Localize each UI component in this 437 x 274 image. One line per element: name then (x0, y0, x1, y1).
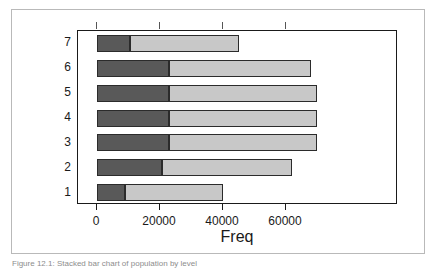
y-tick-label: 5 (59, 85, 71, 99)
bar-row (78, 110, 398, 127)
bar-segment-dark (97, 134, 169, 151)
figure-caption: Figure 12.1: Stacked bar chart of popula… (12, 259, 422, 269)
x-tick-label: 60000 (268, 214, 301, 228)
bar-segment-dark (97, 159, 162, 176)
bar-segment-dark (97, 60, 169, 77)
x-axis-tick (159, 204, 160, 210)
x-axis-tick (96, 204, 97, 210)
y-tick-label: 4 (59, 110, 71, 124)
y-tick-label: 2 (59, 160, 71, 174)
bar-segment-light (130, 35, 239, 52)
bar-segment-light (169, 134, 317, 151)
bar-segment-dark (97, 85, 169, 102)
bar-segment-light (169, 110, 317, 127)
plot-area (77, 30, 397, 204)
bar-row (78, 60, 398, 77)
bar-row (78, 184, 398, 201)
y-tick-label: 6 (59, 60, 71, 74)
plot-inner (78, 31, 396, 203)
x-axis-tick (222, 204, 223, 210)
bar-segment-light (125, 184, 223, 201)
bar-segment-dark (97, 110, 169, 127)
x-axis-tick-top (222, 22, 223, 29)
x-tick-label: 0 (93, 214, 100, 228)
bar-segment-light (169, 85, 317, 102)
bar-row (78, 35, 398, 52)
x-axis-title: Freq (77, 228, 397, 246)
y-tick-label: 7 (59, 35, 71, 49)
x-tick-label: 40000 (205, 214, 238, 228)
x-axis-tick-top (285, 22, 286, 29)
y-tick-label: 1 (59, 185, 71, 199)
bar-row (78, 134, 398, 151)
bar-segment-light (162, 159, 293, 176)
figure-frame: 76543210200004000060000 Freq (11, 9, 425, 254)
bar-segment-light (169, 60, 311, 77)
x-tick-label: 20000 (142, 214, 175, 228)
x-axis-tick-top (159, 22, 160, 29)
bar-segment-dark (97, 184, 125, 201)
bar-row (78, 159, 398, 176)
x-axis-tick (285, 204, 286, 210)
bar-segment-dark (97, 35, 130, 52)
x-axis-tick-top (96, 22, 97, 29)
bar-row (78, 85, 398, 102)
y-tick-label: 3 (59, 135, 71, 149)
